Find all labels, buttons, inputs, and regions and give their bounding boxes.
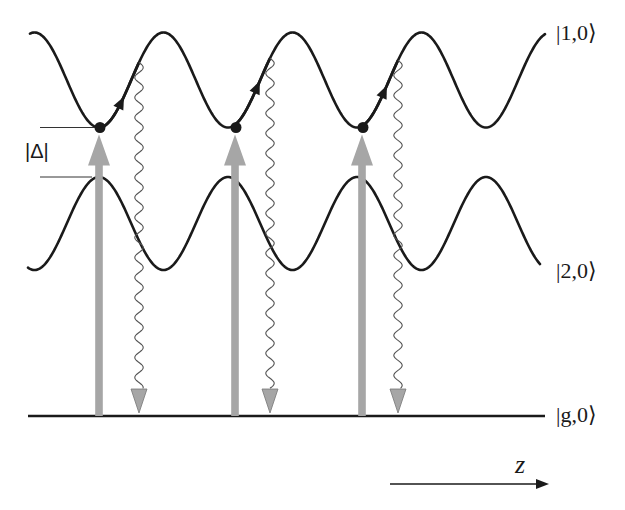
decay-arrowhead-icon xyxy=(262,389,278,413)
band-motion-path xyxy=(99,62,139,127)
spontaneous-decay-wavy-line xyxy=(135,63,143,389)
atom-dot xyxy=(95,122,106,133)
pump-arrowhead-icon xyxy=(224,135,246,166)
spontaneous-decay-wavy-line xyxy=(266,58,274,388)
pump-arrow-shaft xyxy=(95,160,103,416)
motion-arrowhead-icon xyxy=(377,83,392,99)
pump-arrowhead-icon xyxy=(88,135,110,166)
pump-arrow-shaft xyxy=(231,160,239,416)
energy-level-diagram xyxy=(0,0,625,510)
pump-arrowhead-icon xyxy=(351,135,373,166)
z-axis-arrow xyxy=(390,479,549,489)
atom-dot xyxy=(231,122,242,133)
arrowhead-icon xyxy=(536,479,549,489)
spontaneous-decay-wavy-line xyxy=(394,60,402,388)
state-label-lower: |2,0⟩ xyxy=(556,258,597,284)
excitation-group xyxy=(88,58,406,416)
decay-arrowhead-icon xyxy=(131,389,147,413)
pump-arrow-shaft xyxy=(358,160,366,416)
motion-arrowhead-icon xyxy=(250,79,265,95)
state-label-upper: |1,0⟩ xyxy=(556,20,597,46)
upper-band-curve-1-0 xyxy=(30,33,545,128)
gap-label-delta: |Δ| xyxy=(25,140,49,163)
motion-arrowhead-icon xyxy=(113,94,129,111)
decay-arrowhead-icon xyxy=(390,389,406,413)
atom-dot xyxy=(358,122,369,133)
state-label-ground: |g,0⟩ xyxy=(556,402,597,428)
lower-band-curve-2-0 xyxy=(28,177,540,270)
axis-label-z: z xyxy=(515,450,525,480)
